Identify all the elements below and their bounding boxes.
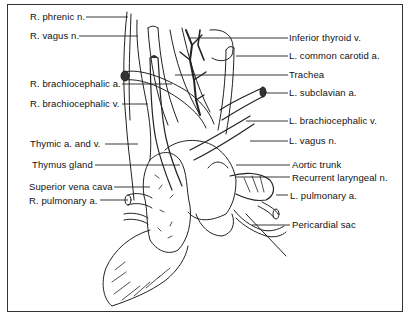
label-r-brachiocephalic-a: R. brachiocephalic a. [30,78,121,89]
label-l-brachiocephalic-v: L. brachiocephalic v. [289,115,377,126]
label-r-brachiocephalic-v: R. brachiocephalic v. [30,98,120,109]
label-l-pulmonary-a: L. pulmonary a. [290,190,357,201]
label-r-vagus-n: R. vagus n. [30,30,79,41]
label-l-vagus-n: L. vagus n. [289,135,337,146]
r-phrenic-nerve [124,12,134,200]
label-r-pulmonary-a: R. pulmonary a. [29,195,98,206]
label-aortic-trunk: Aortic trunk [292,159,341,170]
mediastinum-illustration [0,0,410,316]
label-l-common-carotid-a: L. common carotid a. [289,50,380,61]
leader-lines [79,17,290,225]
label-pericardial-sac: Pericardial sac [292,219,356,230]
label-inferior-thyroid-v: Inferior thyroid v. [289,32,361,43]
label-recurrent-laryngeal-n: Recurrent laryngeal n. [292,172,388,183]
label-thymic-a-and-v: Thymic a. and v. [30,138,101,149]
label-superior-vena-cava: Superior vena cava [29,181,113,192]
label-trachea: Trachea [289,69,324,80]
label-l-subclavian-a: L. subclavian a. [289,87,357,98]
label-thymus-gland: Thymus gland [32,159,93,170]
label-r-phrenic-n: R. phrenic n. [30,11,85,22]
